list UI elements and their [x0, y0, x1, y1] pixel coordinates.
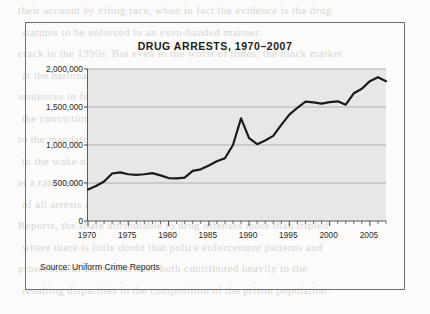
y-axis-tick-label: 2,000,000 — [46, 64, 83, 74]
plot-area — [87, 69, 386, 221]
x-axis-tick-label: 1985 — [199, 230, 217, 240]
y-axis-tick-label: 0 — [78, 216, 83, 226]
x-axis-tick-label: 1990 — [239, 230, 257, 240]
y-axis-tick-label: 1,500,000 — [46, 102, 83, 112]
y-axis-ticks — [84, 69, 88, 221]
x-axis-tick-label: 2000 — [319, 230, 337, 240]
x-axis-tick-label: 1995 — [279, 230, 297, 240]
plot-wrapper: 0500,0001,000,0001,500,0002,000,000 1970… — [87, 69, 385, 221]
scanned-page: their account by citing race, when in fa… — [0, 0, 430, 314]
x-axis-tick-label: 1970 — [78, 230, 96, 240]
gridlines — [88, 69, 386, 221]
x-axis-tick-label: 2005 — [360, 230, 378, 240]
y-axis-tick-label: 1,000,000 — [46, 140, 83, 150]
x-axis-tick-label: 1975 — [118, 230, 136, 240]
bleedthrough-line: their account by citing race, when in fa… — [18, 4, 332, 16]
source-note: Source: Uniform Crime Reports — [40, 262, 160, 272]
y-axis-labels: 0500,0001,000,0001,500,0002,000,000 — [29, 69, 83, 221]
x-axis-tick-label: 1980 — [158, 230, 176, 240]
data-line-drug-arrests — [88, 77, 386, 189]
x-axis-ticks — [88, 221, 386, 226]
chart-title: DRUG ARRESTS, 1970–2007 — [26, 40, 404, 52]
chart-figure-box: DRUG ARRESTS, 1970–2007 0500,0001,000,00… — [25, 22, 405, 290]
y-axis-tick-label: 500,000 — [53, 178, 83, 188]
line-chart-svg — [88, 69, 386, 221]
